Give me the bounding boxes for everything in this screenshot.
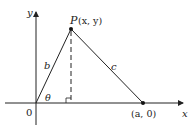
origin-label: 0 (26, 107, 32, 118)
y-axis-label: y (26, 7, 33, 18)
point-p (69, 27, 73, 31)
side-b-label: b (44, 60, 50, 71)
side-b (36, 29, 71, 103)
side-c-label: c (111, 61, 117, 72)
point-a-label: (a, 0) (131, 108, 156, 119)
triangle-diagram: y x 0 P (x, y) (a, 0) b c θ (0, 0, 191, 131)
right-angle-mark (66, 98, 71, 103)
x-axis-label: x (182, 108, 188, 119)
point-p-coords: (x, y) (78, 15, 102, 26)
angle-theta-label: θ (45, 92, 51, 103)
point-p-name: P (69, 14, 78, 27)
point-a (141, 101, 145, 105)
side-c (71, 29, 143, 103)
